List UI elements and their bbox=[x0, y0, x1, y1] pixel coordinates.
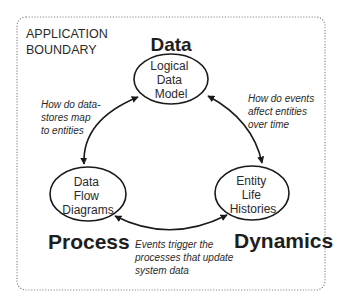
edge-process-to-dynamics bbox=[115, 215, 227, 230]
note-data-dynamics: How do events affect entities over time bbox=[248, 93, 317, 130]
node-entity-life-histories: Entity Life Histories bbox=[215, 166, 289, 220]
diagram-svg: APPLICATION BOUNDARY Data Process Dynami… bbox=[0, 0, 344, 308]
heading-data: Data bbox=[150, 34, 192, 55]
node-logical-data-model: Logical Data Model bbox=[134, 54, 208, 104]
heading-dynamics: Dynamics bbox=[234, 229, 333, 252]
boundary-label: APPLICATION BOUNDARY bbox=[26, 27, 111, 57]
node-data-flow-diagrams: Data Flow Diagrams bbox=[50, 167, 126, 221]
heading-process: Process bbox=[48, 230, 130, 253]
note-process-dynamics: Events trigger the processes that update… bbox=[134, 239, 236, 276]
diagram-canvas: APPLICATION BOUNDARY Data Process Dynami… bbox=[0, 0, 344, 308]
note-data-process: How do data- stores map to entities bbox=[41, 99, 103, 136]
